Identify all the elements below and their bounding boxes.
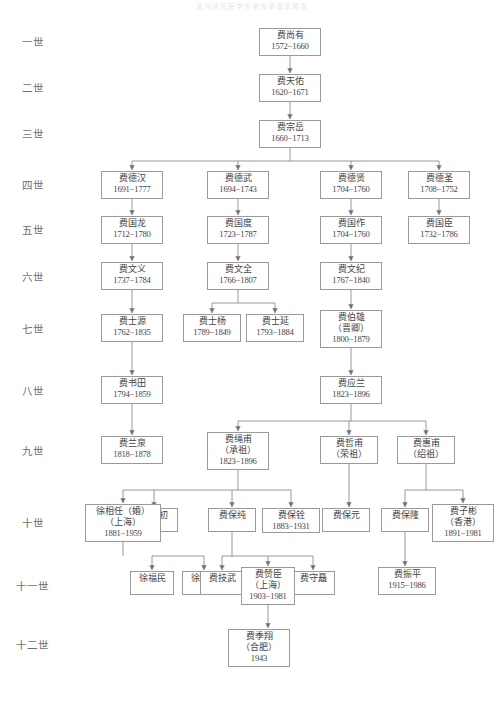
person-name: 费兰泉 <box>102 438 162 449</box>
person-line: 费子彬 <box>433 506 493 517</box>
person-node-fei-shouzhu[interactable]: 费守矗 <box>291 571 335 595</box>
person-name: 费德贤 <box>321 173 381 184</box>
person-years: 1704−1760 <box>321 229 381 240</box>
person-node-fei-baolong[interactable]: 费保隆 <box>381 508 429 532</box>
person-name: 费尚有 <box>260 30 320 41</box>
person-name: 费国作 <box>321 218 381 229</box>
genealogy-chart: 孟河费氏医学世家传承谱系简表 <box>0 0 504 711</box>
person-line: 1883−1931 <box>263 521 319 532</box>
person-name: 费惠甫 <box>398 438 454 449</box>
person-name: 费保纯 <box>209 510 255 521</box>
person-name: 费文义 <box>102 264 162 275</box>
person-node-fei-zhenping[interactable]: 费振平1915−1986 <box>378 567 436 595</box>
person-alias: （绍祖） <box>398 449 454 460</box>
person-name: 费国龙 <box>102 218 162 229</box>
person-node-fei-zongyue[interactable]: 费宗岳1660−1713 <box>259 120 321 148</box>
person-node-fei-desheng[interactable]: 费德圣1708−1752 <box>408 171 470 199</box>
person-name: 费哲甫 <box>321 438 377 449</box>
person-node-fei-shutian[interactable]: 费书田1794−1859 <box>101 376 163 404</box>
person-node-fei-jiwu[interactable]: 费技武 <box>200 571 244 595</box>
person-node-fei-baochun[interactable]: 费保纯 <box>208 508 256 532</box>
person-name: 费德圣 <box>409 173 469 184</box>
person-line: 1823−1896 <box>208 456 268 467</box>
person-name: 费保元 <box>323 510 369 521</box>
person-node-fei-shangyou[interactable]: 费尚有1572−1660 <box>259 28 321 56</box>
person-node-fei-zhefu[interactable]: 费哲甫（荣祖） <box>320 436 378 464</box>
person-node-fei-fumin[interactable]: 徐福民 <box>130 571 174 595</box>
person-alias: （荣祖） <box>321 449 377 460</box>
person-line: 费伯雄 <box>321 312 381 323</box>
person-years: 1620−1671 <box>260 87 320 98</box>
person-line: 1881−1959 <box>86 528 160 539</box>
person-name: 费士源 <box>102 316 162 327</box>
person-name: 费国度 <box>208 218 268 229</box>
person-node-xu-xiangren[interactable]: 徐相任（婚）（上海）1881−1959 <box>85 504 161 542</box>
person-years: 1732−1786 <box>409 229 469 240</box>
person-line: 费保铨 <box>263 510 319 521</box>
person-node-fei-baoyuan[interactable]: 费保元 <box>322 508 370 532</box>
person-line: （上海） <box>86 517 160 528</box>
person-node-fei-baoquan[interactable]: 费保铨1883−1931 <box>262 508 320 533</box>
person-node-fei-shiyang[interactable]: 费士杨1789−1849 <box>183 314 241 342</box>
person-name: 费技武 <box>201 573 243 584</box>
person-years: 1660−1713 <box>260 133 320 144</box>
person-node-fei-yinglan[interactable]: 费应兰1823−1896 <box>320 376 382 404</box>
person-line: （承祖） <box>208 445 268 456</box>
person-years: 1915−1986 <box>379 580 435 591</box>
person-node-fei-guolong[interactable]: 费国龙1712−1780 <box>101 216 163 244</box>
person-name: 费守矗 <box>292 573 334 584</box>
person-name: 费德武 <box>208 173 268 184</box>
person-node-fei-guochen[interactable]: 费国臣1732−1786 <box>408 216 470 244</box>
person-node-fei-shiyuan[interactable]: 费士源1762−1835 <box>101 314 163 342</box>
person-line: 1800−1879 <box>321 334 381 345</box>
person-node-fei-wenyi[interactable]: 费文义1737−1784 <box>101 262 163 290</box>
person-node-fei-bo-xiong[interactable]: 费伯雄（晋卿）1800−1879 <box>320 310 382 348</box>
person-years: 1762−1835 <box>102 327 162 338</box>
person-node-fei-jixiang[interactable]: 费季翔（合肥）1943 <box>228 629 290 667</box>
person-years: 1572−1660 <box>260 41 320 52</box>
person-name: 费应兰 <box>321 378 381 389</box>
person-name: 费保隆 <box>382 510 428 521</box>
person-node-fei-dewu[interactable]: 费德武1694−1743 <box>207 171 269 199</box>
person-years: 1789−1849 <box>184 327 240 338</box>
person-years: 1691−1777 <box>102 184 162 195</box>
person-years: 1823−1896 <box>321 389 381 400</box>
person-node-fei-wenji[interactable]: 费文纪1767−1840 <box>320 262 382 290</box>
person-name: 费天佑 <box>260 76 320 87</box>
person-line: 费绳甫 <box>208 434 268 445</box>
person-node-fei-zibin[interactable]: 费子彬（香港）1891−1981 <box>432 504 494 542</box>
person-name: 费士杨 <box>184 316 240 327</box>
person-name: 费文纪 <box>321 264 381 275</box>
person-node-fei-wenquan[interactable]: 费文全1766−1807 <box>207 262 269 290</box>
person-node-fei-dexian[interactable]: 费德贤1704−1760 <box>320 171 382 199</box>
person-years: 1766−1807 <box>208 275 268 286</box>
person-years: 1723−1787 <box>208 229 268 240</box>
person-name: 徐福民 <box>131 573 173 584</box>
person-name: 费宗岳 <box>260 122 320 133</box>
person-years: 1794−1859 <box>102 389 162 400</box>
person-name: 费文全 <box>208 264 268 275</box>
person-node-fei-guodu[interactable]: 费国度1723−1787 <box>207 216 269 244</box>
person-node-fei-shiyan[interactable]: 费士延1793−1884 <box>246 314 304 342</box>
person-node-fei-guozuo[interactable]: 费国作1704−1760 <box>320 216 382 244</box>
person-node-fei-shengfu[interactable]: 费绳甫（承祖）1823−1896 <box>207 432 269 470</box>
person-name: 费振平 <box>379 569 435 580</box>
person-name: 费德汉 <box>102 173 162 184</box>
person-line: 徐相任（婚） <box>86 506 160 517</box>
person-node-fei-zanchen[interactable]: 费赞臣（上海）1903−1981 <box>241 567 295 605</box>
person-node-fei-lanquan[interactable]: 费兰泉1818−1878 <box>101 436 163 464</box>
person-line: （合肥） <box>229 642 289 653</box>
person-node-fei-dehan[interactable]: 费德汉1691−1777 <box>101 171 163 199</box>
person-years: 1793−1884 <box>247 327 303 338</box>
person-line: （上海） <box>242 580 294 591</box>
person-line: 费季翔 <box>229 631 289 642</box>
person-name: 费国臣 <box>409 218 469 229</box>
person-line: 1903−1981 <box>242 591 294 602</box>
person-years: 1737−1784 <box>102 275 162 286</box>
person-node-fei-huifu[interactable]: 费惠甫（绍祖） <box>397 436 455 464</box>
person-years: 1708−1752 <box>409 184 469 195</box>
person-name: 费士延 <box>247 316 303 327</box>
person-line: （晋卿） <box>321 323 381 334</box>
person-years: 1704−1760 <box>321 184 381 195</box>
person-node-fei-tianyou[interactable]: 费天佑1620−1671 <box>259 74 321 102</box>
